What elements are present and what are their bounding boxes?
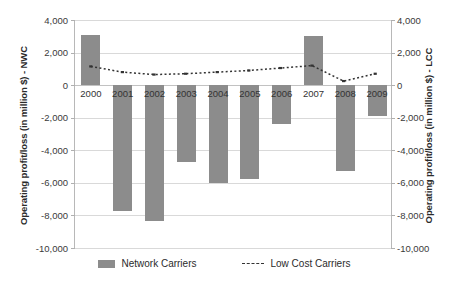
y-tick-label-right-4000: 4,000 bbox=[397, 15, 449, 26]
legend-label-low-cost-carriers: Low Cost Carriers bbox=[270, 258, 350, 269]
y-tick-label-right--4000: -4,000 bbox=[397, 145, 449, 156]
line-marker-2003[interactable] bbox=[184, 73, 187, 75]
y-tick-label-right-0: 0 bbox=[397, 80, 449, 91]
y-tick-label-left-0: 0 bbox=[14, 80, 68, 91]
tickmark-right bbox=[391, 85, 395, 86]
line-marker-2000[interactable] bbox=[89, 65, 92, 67]
y-tick-label-left--8000: -8,000 bbox=[14, 210, 68, 221]
plot-area: 2000200120022003200420052006200720082009 bbox=[74, 20, 392, 248]
line-series-low-cost-carriers bbox=[75, 20, 391, 248]
tickmark-right bbox=[391, 183, 395, 184]
y-tick-label-left--10000: -10,000 bbox=[14, 243, 68, 254]
y-tick-label-left-2000: 2,000 bbox=[14, 47, 68, 58]
x-tick-label-2009: 2009 bbox=[359, 88, 395, 99]
x-tick-label-2003: 2003 bbox=[168, 88, 204, 99]
line-marker-2004[interactable] bbox=[216, 71, 219, 73]
x-tick-label-2001: 2001 bbox=[105, 88, 141, 99]
line-marker-2005[interactable] bbox=[247, 69, 250, 71]
line-marker-2006[interactable] bbox=[279, 67, 282, 69]
y-tick-label-right--8000: -8,000 bbox=[397, 210, 449, 221]
y-tick-label-left--2000: -2,000 bbox=[14, 112, 68, 123]
chart-container: Operating profit/loss (in million $) - N… bbox=[0, 0, 449, 287]
dashed-line-swatch-icon bbox=[242, 263, 264, 265]
tickmark-right bbox=[391, 118, 395, 119]
low-cost-carriers-dashed-path bbox=[91, 66, 375, 81]
tickmark-left bbox=[71, 248, 75, 249]
legend-item-network-carriers[interactable]: Network Carriers bbox=[98, 258, 196, 269]
legend-item-low-cost-carriers[interactable]: Low Cost Carriers bbox=[242, 258, 350, 269]
line-marker-2007[interactable] bbox=[310, 65, 313, 67]
x-tick-label-2008: 2008 bbox=[327, 88, 363, 99]
x-tick-label-2005: 2005 bbox=[232, 88, 268, 99]
tickmark-right bbox=[391, 215, 395, 216]
y-tick-label-right-2000: 2,000 bbox=[397, 47, 449, 58]
x-tick-label-2007: 2007 bbox=[296, 88, 332, 99]
gridline--10000 bbox=[75, 248, 391, 249]
tickmark-right bbox=[391, 53, 395, 54]
tickmark-right bbox=[391, 20, 395, 21]
bar-swatch-icon bbox=[98, 260, 115, 268]
line-marker-2001[interactable] bbox=[121, 71, 124, 73]
line-marker-2008[interactable] bbox=[342, 80, 345, 82]
y-tick-label-left--6000: -6,000 bbox=[14, 177, 68, 188]
legend-label-network-carriers: Network Carriers bbox=[121, 258, 196, 269]
y-tick-label-left-4000: 4,000 bbox=[14, 15, 68, 26]
y-tick-label-left--4000: -4,000 bbox=[14, 145, 68, 156]
line-marker-2002[interactable] bbox=[152, 73, 155, 75]
chart-legend: Network Carriers Low Cost Carriers bbox=[0, 258, 449, 269]
x-tick-label-2002: 2002 bbox=[137, 88, 173, 99]
y-tick-label-right--6000: -6,000 bbox=[397, 177, 449, 188]
tickmark-right bbox=[391, 248, 395, 249]
x-tick-label-2004: 2004 bbox=[200, 88, 236, 99]
line-marker-2009[interactable] bbox=[374, 73, 377, 75]
x-tick-label-2000: 2000 bbox=[73, 88, 109, 99]
x-tick-label-2006: 2006 bbox=[264, 88, 300, 99]
y-tick-label-right--2000: -2,000 bbox=[397, 112, 449, 123]
tickmark-right bbox=[391, 150, 395, 151]
y-tick-label-right--10000: -10,000 bbox=[397, 243, 449, 254]
